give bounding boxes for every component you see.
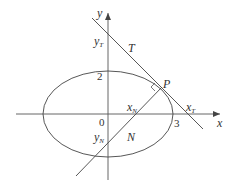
y-axis-label: y [96,6,103,20]
ellipse-b-label: 2 [97,70,103,82]
x-axis-label: x [216,116,223,130]
ellipse-a-label: 3 [174,117,180,129]
origin-label: 0 [99,116,105,128]
tangent-label: T [128,41,136,55]
point-p-label: P [162,77,171,91]
tangent-y-intercept-label: yT [93,34,104,49]
ellipse-diagram: y x 0 2 3 P T N yT xT xN yN [0,0,233,189]
normal-line [76,87,162,176]
tangent-x-intercept-label: xT [185,100,196,115]
normal-y-intercept-label: yN [93,130,104,145]
normal-label: N [126,130,136,144]
normal-x-intercept-label: xN [126,100,137,115]
